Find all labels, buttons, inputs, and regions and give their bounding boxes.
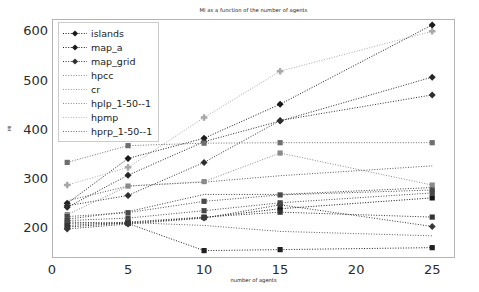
- data-point-marker: [429, 223, 436, 230]
- legend-item-hpcc[interactable]: hpcc: [62, 68, 154, 82]
- legend-line-sample-icon: [62, 42, 88, 53]
- data-point-marker: [278, 150, 283, 155]
- legend-line-sample-icon: [62, 28, 88, 39]
- data-point-marker: [278, 210, 283, 215]
- legend-item-hplp_1-50--1[interactable]: hplp_1-50--1: [62, 96, 154, 110]
- y-tick-label: 600: [4, 24, 48, 37]
- legend-line-sample-icon: [62, 112, 88, 123]
- data-point-marker: [201, 179, 206, 184]
- data-point-marker: [430, 214, 435, 219]
- data-point-marker: [277, 101, 284, 108]
- legend-item-label: map_grid: [88, 56, 135, 67]
- data-point-marker: [125, 215, 130, 220]
- y-tick-label: 300: [4, 172, 48, 185]
- data-point-marker: [64, 182, 71, 189]
- data-point-marker: [430, 182, 435, 187]
- series-extra_g: [65, 190, 435, 223]
- legend-line-sample-icon: [62, 70, 88, 81]
- data-point-marker: [277, 117, 284, 124]
- y-tick-label: 500: [4, 74, 48, 87]
- data-point-marker: [125, 172, 132, 179]
- data-point-marker: [429, 91, 436, 98]
- data-point-marker: [65, 218, 70, 223]
- y-axis-ticks: 200300400500600: [0, 19, 48, 258]
- series-extra_b: [65, 150, 435, 217]
- x-axis-ticks: 0510152025: [52, 260, 455, 278]
- data-point-marker: [430, 190, 435, 195]
- series-hpcc: [65, 140, 435, 165]
- data-point-marker: [430, 140, 435, 145]
- data-point-marker: [125, 143, 130, 148]
- data-point-marker: [125, 164, 132, 171]
- series-hprp_1-50--1: [65, 219, 435, 253]
- legend-item-label: map_a: [88, 42, 123, 53]
- legend-line-sample-icon: [62, 98, 88, 109]
- data-point-marker: [201, 141, 206, 146]
- figure-canvas: MI as a function of the number of agents…: [0, 0, 479, 292]
- data-point-marker: [65, 160, 70, 165]
- x-tick-label: 20: [341, 263, 371, 276]
- legend-item-label: hpcc: [88, 70, 114, 81]
- data-point-marker: [430, 195, 435, 200]
- legend-marker-icon: [72, 58, 78, 64]
- data-point-marker: [201, 248, 206, 253]
- legend-item-cr[interactable]: cr: [62, 82, 154, 96]
- x-tick-label: 0: [37, 263, 67, 276]
- y-tick-label: 200: [4, 221, 48, 234]
- legend-marker-icon: [72, 44, 78, 50]
- series-islands: [65, 195, 435, 229]
- legend-line-sample-icon: [62, 56, 88, 67]
- chart-legend: islandsmap_amap_gridhpcccrhplp_1-50--1hp…: [58, 22, 159, 142]
- x-tick-label: 25: [417, 263, 447, 276]
- data-point-marker: [125, 192, 132, 199]
- page-title: MI as a function of the number of agents: [52, 7, 455, 14]
- data-point-marker: [125, 183, 130, 188]
- data-point-marker: [201, 159, 208, 166]
- x-axis-label: number of agents: [52, 277, 455, 284]
- legend-item-map_a[interactable]: map_a: [62, 40, 154, 54]
- legend-line-sample-icon: [62, 84, 88, 95]
- legend-item-map_grid[interactable]: map_grid: [62, 54, 154, 68]
- legend-item-label: hprp_1-50--1: [88, 126, 152, 137]
- legend-marker-icon: [72, 30, 78, 36]
- data-point-marker: [429, 74, 436, 81]
- legend-item-label: hplp_1-50--1: [88, 98, 151, 109]
- legend-item-hpmp[interactable]: hpmp: [62, 110, 154, 124]
- data-point-marker: [429, 28, 436, 35]
- data-point-marker: [278, 200, 283, 205]
- x-tick-label: 15: [265, 263, 295, 276]
- data-point-marker: [430, 245, 435, 250]
- series-cr: [67, 166, 432, 201]
- data-point-marker: [429, 21, 436, 28]
- data-point-marker: [278, 247, 283, 252]
- data-point-marker: [201, 199, 206, 204]
- x-tick-label: 5: [113, 263, 143, 276]
- data-point-marker: [201, 114, 208, 121]
- data-point-marker: [201, 208, 206, 213]
- y-axis-label: MI: [7, 126, 13, 131]
- legend-item-islands[interactable]: islands: [62, 26, 154, 40]
- data-point-marker: [125, 155, 132, 162]
- x-tick-label: 10: [189, 263, 219, 276]
- legend-item-label: hpmp: [88, 112, 118, 123]
- legend-line-sample-icon: [62, 126, 88, 137]
- legend-item-label: islands: [88, 28, 124, 39]
- data-point-marker: [277, 68, 284, 75]
- legend-item-hprp_1-50--1[interactable]: hprp_1-50--1: [62, 124, 154, 138]
- series-extra_f: [64, 201, 436, 232]
- data-point-marker: [125, 210, 130, 215]
- legend-item-label: cr: [88, 84, 100, 95]
- data-point-marker: [278, 192, 283, 197]
- data-point-marker: [278, 140, 283, 145]
